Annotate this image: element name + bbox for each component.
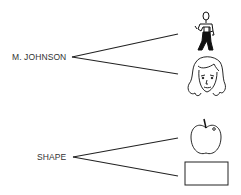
- connector-lines-johnson: [72, 34, 178, 74]
- apple-icon: [191, 119, 221, 154]
- man-figure-icon: [195, 12, 214, 50]
- diagram-canvas: [0, 0, 241, 195]
- connector-lines-shape: [73, 138, 178, 176]
- rectangle-icon: [185, 162, 228, 185]
- woman-face-icon: [188, 57, 225, 96]
